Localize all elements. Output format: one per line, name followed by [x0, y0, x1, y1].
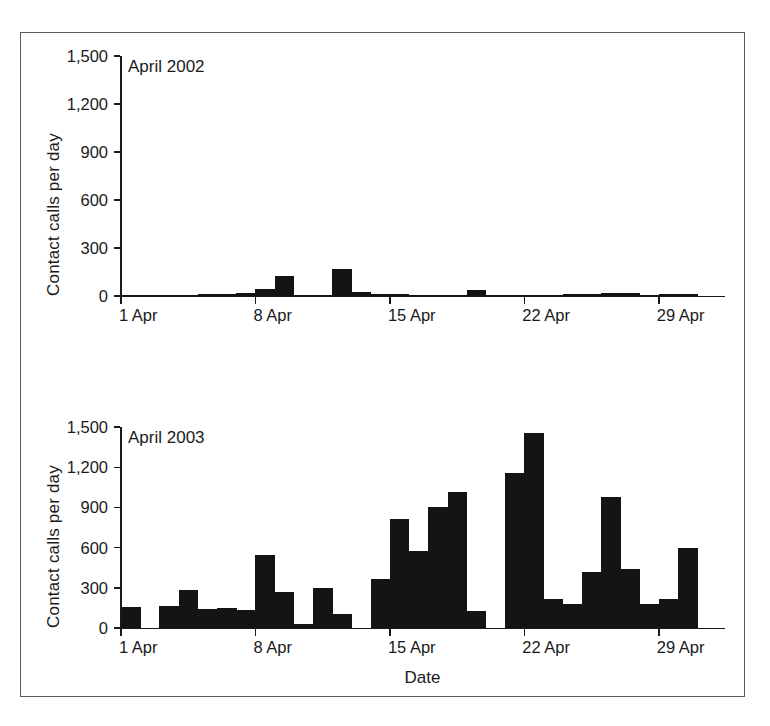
bar: [582, 572, 602, 628]
bar: [313, 588, 333, 628]
x-axis-tick-label: 1 Apr: [119, 638, 158, 657]
x-axis-tick-label: 8 Apr: [253, 638, 292, 657]
bar: [255, 555, 275, 628]
y-axis-tick: [114, 547, 120, 549]
bar: [409, 551, 429, 628]
y-axis-tick: [114, 627, 120, 629]
y-axis-tick-label: 0: [48, 619, 108, 638]
y-axis-line: [120, 427, 122, 628]
bar: [563, 604, 583, 628]
y-axis-tick: [114, 467, 120, 469]
x-axis-title: Date: [120, 668, 725, 688]
bar: [448, 492, 468, 628]
x-axis-tick: [658, 629, 660, 636]
bar: [236, 610, 256, 628]
y-axis-tick-label: 300: [48, 578, 108, 597]
x-axis-tick-label: 22 Apr: [522, 638, 570, 657]
x-axis-tick: [255, 629, 257, 636]
bar: [544, 599, 564, 628]
bar: [294, 624, 314, 628]
y-axis-tick: [114, 587, 120, 589]
y-axis-tick: [114, 507, 120, 509]
bar: [121, 607, 141, 628]
bar: [179, 590, 199, 628]
figure-container: Contact calls per day April 2002 0300600…: [0, 0, 770, 726]
bar: [524, 433, 544, 628]
bar: [275, 592, 295, 628]
chart-panel-april-2003: Contact calls per day April 2003 0300600…: [0, 0, 770, 726]
y-axis-tick-label: 900: [48, 498, 108, 517]
bar: [428, 507, 448, 628]
x-axis-line: [120, 628, 725, 629]
bar: [159, 606, 179, 628]
x-axis-tick-label: 29 Apr: [657, 638, 705, 657]
bar: [505, 473, 525, 628]
bar: [390, 519, 410, 628]
bar: [371, 579, 391, 628]
bar: [467, 611, 487, 628]
y-axis-tick: [114, 426, 120, 428]
bar: [198, 609, 218, 628]
x-axis-tick: [389, 629, 391, 636]
y-axis-tick-label: 600: [48, 538, 108, 557]
x-axis-tick-label: 15 Apr: [388, 638, 436, 657]
x-axis-tick: [524, 629, 526, 636]
x-axis-tick: [120, 629, 122, 636]
y-axis-tick-label: 1,500: [48, 418, 108, 437]
bar: [620, 569, 640, 628]
bar: [678, 548, 698, 628]
bar: [659, 599, 679, 628]
plot-area-bottom: 03006009001,2001,5001 Apr8 Apr15 Apr22 A…: [120, 427, 725, 628]
bar: [640, 604, 660, 628]
bar: [332, 614, 352, 628]
bar: [601, 497, 621, 628]
bar: [217, 608, 237, 628]
y-axis-tick-label: 1,200: [48, 458, 108, 477]
